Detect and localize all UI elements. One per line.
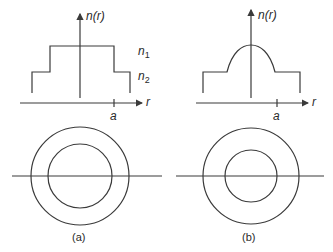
- panel-a-profile: n(r) r a n1 n2: [20, 9, 151, 123]
- panel-b-label: (b): [242, 231, 255, 243]
- panel-a-step-curve: [32, 46, 130, 93]
- panel-a-x-axis-label: r: [146, 95, 151, 109]
- panel-a-n2-label: n2: [138, 69, 150, 85]
- panel-a-n1-label: n1: [138, 44, 150, 60]
- panel-b-cross-section: [176, 128, 324, 224]
- panel-a-cross-section: [12, 127, 162, 225]
- figure-canvas: n(r) r a n1 n2 n(r) r a (a) (b): [0, 0, 333, 252]
- panel-b-y-axis-label: n(r): [258, 8, 277, 22]
- panel-a-label: (a): [72, 231, 85, 243]
- panel-b-profile: n(r) r a: [196, 8, 317, 123]
- panel-b-x-tick-label: a: [273, 109, 280, 123]
- panel-b-x-axis-label: r: [312, 95, 317, 109]
- panel-a-x-tick-label: a: [110, 109, 117, 123]
- panel-a-y-axis-label: n(r): [86, 9, 105, 23]
